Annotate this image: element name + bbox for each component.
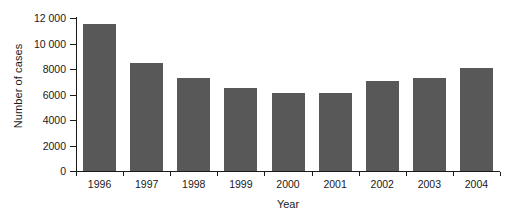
- y-tick-label: 10 000: [0, 39, 66, 49]
- x-tick-label-1996: 1996: [88, 178, 111, 190]
- x-tick-label-2002: 2002: [371, 178, 394, 190]
- x-tick-mark: [76, 172, 77, 176]
- y-tick-label: 6000: [0, 90, 66, 100]
- y-tick-label: 12 000: [0, 13, 66, 23]
- x-tick-label-2003: 2003: [418, 178, 441, 190]
- bar-chart: Number of cases 0200040006000800010 0001…: [0, 0, 513, 218]
- plot-area: [76, 18, 500, 171]
- x-tick-mark: [500, 172, 501, 176]
- x-axis-title: Year: [76, 198, 500, 211]
- x-tick-label-1998: 1998: [182, 178, 205, 190]
- x-tick-mark: [359, 172, 360, 176]
- y-tick-label: 2000: [0, 141, 66, 151]
- x-tick-label-2004: 2004: [465, 178, 488, 190]
- bar-2004: [460, 68, 493, 171]
- x-tick-mark: [312, 172, 313, 176]
- bar-1999: [224, 88, 257, 171]
- x-tick-label-2001: 2001: [323, 178, 346, 190]
- y-tick-label: 0: [0, 166, 66, 176]
- bar-2003: [413, 78, 446, 171]
- x-tick-mark: [406, 172, 407, 176]
- x-tick-mark: [170, 172, 171, 176]
- y-tick-label: 4000: [0, 115, 66, 125]
- x-tick-mark: [453, 172, 454, 176]
- x-axis-line: [76, 171, 500, 172]
- y-tick-label: 8000: [0, 64, 66, 74]
- x-tick-label-1997: 1997: [135, 178, 158, 190]
- x-tick-mark: [123, 172, 124, 176]
- bar-2001: [319, 93, 352, 171]
- bar-1997: [130, 63, 163, 171]
- bar-1998: [177, 78, 210, 171]
- x-tick-mark: [217, 172, 218, 176]
- bar-1996: [83, 24, 116, 171]
- x-tick-label-2000: 2000: [276, 178, 299, 190]
- x-tick-label-1999: 1999: [229, 178, 252, 190]
- bar-2000: [272, 93, 305, 171]
- x-tick-mark: [264, 172, 265, 176]
- bar-2002: [366, 81, 399, 171]
